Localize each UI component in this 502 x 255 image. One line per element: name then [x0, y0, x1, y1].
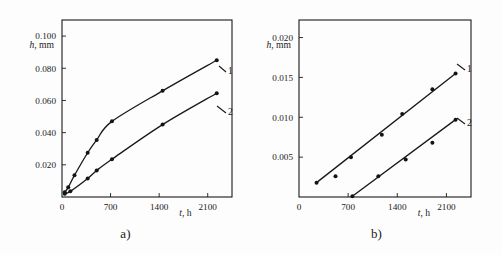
y-tick-label-a-3: 0.080	[35, 64, 56, 74]
curve-a-1	[65, 60, 217, 192]
data-point-b-1-3	[380, 133, 384, 137]
plot-a: 0.0200.0400.0600.0800.100070014002100h, …	[0, 0, 251, 255]
y-axis-unit: , mm	[34, 39, 54, 50]
data-point-b-2-3	[430, 141, 434, 145]
y-tick-label-b-1: 0.010	[272, 113, 293, 123]
y-axis-title-a: h, mm	[29, 39, 54, 50]
data-point-a-1-7	[215, 58, 219, 62]
y-axis-unit: , mm	[271, 39, 291, 50]
data-point-a-2-5	[161, 123, 165, 127]
data-point-b-1-6	[454, 71, 458, 75]
data-point-a-1-6	[161, 89, 165, 93]
data-point-a-1-1	[66, 185, 70, 189]
panel-b: 0.0050.0100.0150.020070014002100h, mmt, …	[251, 0, 502, 255]
curve-b-1	[317, 73, 456, 182]
data-point-a-1-4	[95, 138, 99, 142]
data-point-b-2-0	[350, 194, 354, 198]
x-axis-unit: , h	[420, 207, 430, 218]
curve-label-leader-b-1	[457, 64, 465, 70]
figure-container: 0.0200.0400.0600.0800.100070014002100h, …	[0, 0, 502, 255]
x-axis-unit: , h	[182, 207, 192, 218]
y-tick-label-b-2: 0.015	[272, 73, 293, 83]
x-axis-title-b: t, h	[418, 207, 430, 218]
data-point-a-1-3	[86, 151, 90, 155]
data-point-a-2-4	[110, 157, 114, 161]
curve-label-leader-b-2	[457, 118, 465, 124]
plot-b: 0.0050.0100.0150.020070014002100h, mmt, …	[251, 0, 502, 255]
x-tick-label-a-1: 700	[104, 202, 118, 212]
data-point-b-1-2	[349, 155, 353, 159]
x-tick-label-b-3: 2100	[437, 202, 456, 212]
plot-frame-b	[299, 20, 471, 197]
data-point-a-2-0	[63, 192, 67, 196]
data-point-a-2-2	[86, 177, 90, 181]
data-point-b-1-1	[334, 174, 338, 178]
data-point-a-1-2	[72, 173, 76, 177]
data-point-b-1-5	[430, 87, 434, 91]
panel-a: 0.0200.0400.0600.0800.100070014002100h, …	[0, 0, 251, 255]
x-tick-label-b-0: 0	[297, 202, 302, 212]
y-tick-label-b-0: 0.005	[272, 152, 293, 162]
data-point-a-2-3	[95, 168, 99, 172]
curve-label-b-2: 2	[467, 117, 472, 128]
plot-frame-a	[62, 20, 232, 197]
x-axis-title-a: t, h	[179, 207, 191, 218]
data-point-a-1-5	[110, 119, 114, 123]
data-point-a-2-6	[215, 91, 219, 95]
panel-b-caption: b)	[251, 226, 502, 242]
curve-b-2	[352, 120, 455, 197]
x-tick-label-b-1: 700	[341, 202, 355, 212]
y-tick-label-a-1: 0.040	[35, 128, 56, 138]
data-point-b-2-1	[376, 174, 380, 178]
data-point-a-2-1	[68, 189, 72, 193]
y-tick-label-a-2: 0.060	[35, 96, 56, 106]
curve-label-a-2: 2	[228, 106, 233, 117]
curve-label-leader-a-2	[217, 106, 226, 113]
x-tick-label-a-0: 0	[60, 202, 65, 212]
data-point-b-1-0	[315, 181, 319, 185]
x-tick-label-b-2: 1400	[388, 202, 407, 212]
curve-label-leader-a-1	[219, 66, 226, 72]
curve-label-b-1: 1	[467, 63, 472, 74]
panel-a-caption: a)	[0, 226, 251, 242]
y-axis-title-b: h, mm	[266, 39, 291, 50]
x-tick-label-a-2: 1400	[150, 202, 169, 212]
curve-label-a-1: 1	[228, 65, 233, 76]
data-point-b-2-2	[404, 158, 408, 162]
data-point-b-1-4	[400, 112, 404, 116]
y-tick-label-a-0: 0.020	[35, 160, 56, 170]
x-tick-label-a-3: 2100	[199, 202, 218, 212]
